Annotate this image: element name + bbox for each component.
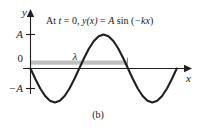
equation-prefix: At: [46, 15, 59, 26]
wavelength-band: [30, 61, 128, 65]
equation-equals: =: [97, 15, 108, 26]
y-tick-label-positive-a: A: [15, 28, 23, 40]
wave-figure: At t = 0, y(x) = A sin (−kx) λ x y A 0 −…: [0, 0, 197, 128]
y-axis-arrow-icon: [27, 9, 34, 17]
equation-close-paren: ): [150, 15, 153, 27]
equation-sin: sin (: [114, 15, 135, 27]
equation-of-x: (x): [86, 15, 98, 27]
figure-caption: (b): [92, 109, 104, 121]
y-tick-label-zero: 0: [18, 52, 24, 64]
y-axis-label: y: [21, 6, 27, 18]
y-tick-label-negative-a: −A: [9, 82, 23, 94]
equation-label: At t = 0, y(x) = A sin (−kx): [46, 15, 153, 27]
wavelength-label: λ: [72, 50, 78, 62]
equation-equals-zero: = 0,: [61, 15, 82, 26]
x-axis-label: x: [185, 72, 191, 84]
equation-neg-k: −k: [134, 15, 146, 26]
wave-figure-svg: At t = 0, y(x) = A sin (−kx) λ x y A 0 −…: [0, 0, 197, 128]
